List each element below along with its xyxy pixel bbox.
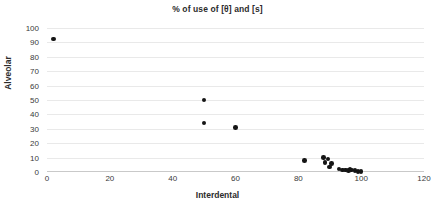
x-tick-label: 20	[105, 174, 114, 183]
y-tick-label: 40	[30, 110, 39, 119]
y-tick-label: 20	[30, 139, 39, 148]
data-point	[329, 161, 334, 166]
data-points-layer	[47, 28, 424, 172]
y-tick-label: 0	[35, 168, 39, 177]
x-tick-label: 40	[168, 174, 177, 183]
y-axis-tick-labels: 0102030405060708090100	[0, 28, 43, 172]
y-tick-label: 10	[30, 153, 39, 162]
scatter-chart: % of use of [θ] and [s] Alveolar 0102030…	[0, 0, 435, 210]
x-axis-tick-labels: 020406080100120	[47, 174, 424, 188]
y-tick-label: 50	[30, 96, 39, 105]
x-tick-label: 80	[294, 174, 303, 183]
data-point	[323, 160, 328, 165]
data-point	[202, 98, 207, 103]
data-point	[359, 169, 364, 174]
y-tick-label: 60	[30, 81, 39, 90]
y-tick-label: 30	[30, 124, 39, 133]
chart-title: % of use of [θ] and [s]	[0, 4, 435, 14]
data-point	[233, 125, 238, 130]
y-tick-label: 100	[26, 24, 39, 33]
x-tick-label: 60	[231, 174, 240, 183]
plot-area	[47, 28, 424, 172]
data-point	[302, 158, 307, 163]
y-tick-label: 80	[30, 52, 39, 61]
x-axis-title: Interdental	[0, 190, 435, 200]
data-point	[51, 37, 56, 42]
y-tick-label: 90	[30, 38, 39, 47]
x-tick-label: 120	[417, 174, 430, 183]
data-point	[202, 121, 207, 126]
y-tick-label: 70	[30, 67, 39, 76]
x-tick-label: 100	[354, 174, 367, 183]
x-tick-label: 0	[45, 174, 49, 183]
